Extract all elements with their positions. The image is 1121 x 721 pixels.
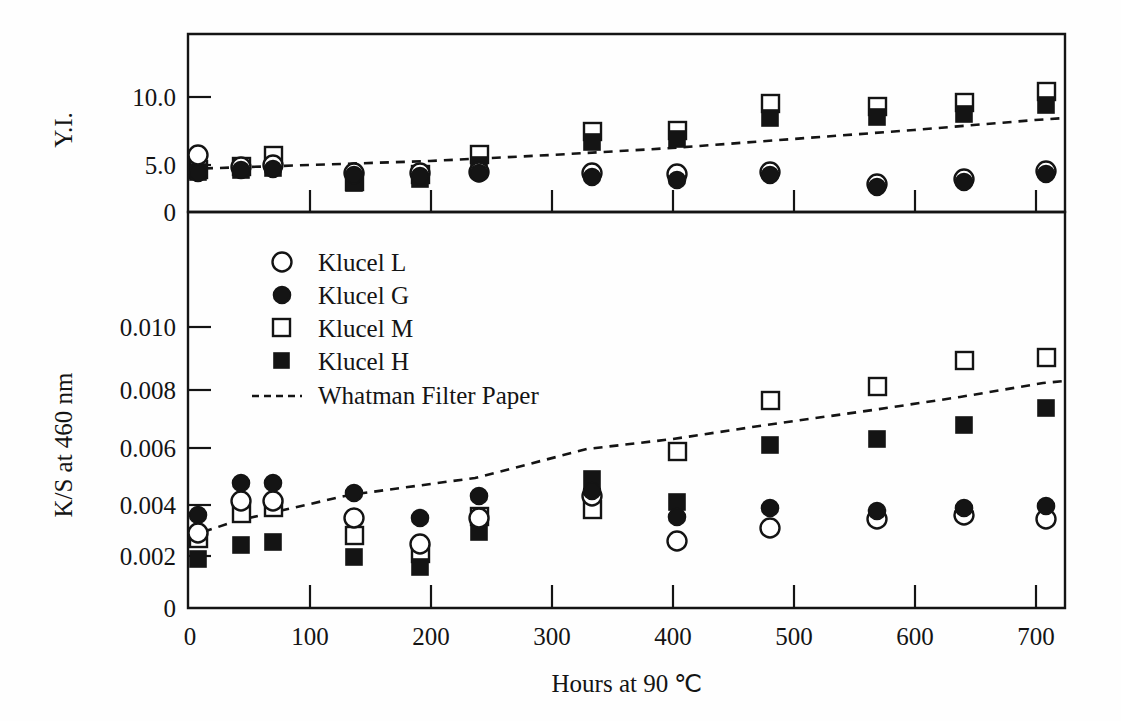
marker-filled-circle	[869, 179, 886, 196]
lower-ytick-label-0010: 0.010	[120, 314, 176, 341]
marker-filled-circle	[190, 507, 207, 524]
marker-filled-square	[1038, 400, 1054, 416]
legend-marker-filled-circle	[274, 287, 291, 304]
lower-x-ticks	[310, 585, 1036, 608]
marker-filled-circle	[669, 172, 686, 189]
marker-filled-square	[233, 537, 249, 553]
x-axis-title: Hours at 90 ℃	[552, 670, 703, 697]
marker-open-square	[869, 378, 886, 395]
legend-label-klucel-h: Klucel H	[318, 348, 409, 375]
upper-series-klucel-m	[190, 83, 1055, 190]
marker-open-circle	[189, 146, 208, 165]
marker-filled-square	[762, 110, 778, 126]
lower-series-klucel-m	[190, 349, 1055, 562]
marker-open-circle	[761, 519, 780, 538]
marker-filled-circle	[471, 488, 488, 505]
legend-marker-open-square	[273, 319, 290, 336]
marker-filled-circle	[233, 475, 250, 492]
marker-filled-circle	[233, 162, 250, 179]
marker-open-square	[669, 443, 686, 460]
marker-filled-circle	[869, 503, 886, 520]
legend-label-whatman-filter-paper: Whatman Filter Paper	[318, 382, 539, 409]
marker-filled-circle	[346, 485, 363, 502]
marker-filled-square	[412, 559, 428, 575]
marker-filled-circle	[669, 509, 686, 526]
marker-filled-square	[669, 494, 685, 510]
xtick-label-200: 200	[412, 623, 450, 650]
xtick-label-100: 100	[291, 623, 329, 650]
marker-open-square	[956, 352, 973, 369]
marker-open-circle	[668, 532, 687, 551]
marker-filled-square	[584, 134, 600, 150]
marker-filled-circle	[346, 167, 363, 184]
chart-legend: Klucel L Klucel G Klucel M Klucel H What…	[252, 249, 539, 409]
marker-filled-circle	[1038, 166, 1055, 183]
marker-filled-circle	[471, 165, 488, 182]
marker-filled-square	[265, 534, 281, 550]
marker-filled-square	[762, 437, 778, 453]
upper-panel-frame	[188, 34, 1065, 212]
xtick-label-0: 0	[184, 623, 197, 650]
lower-ytick-label-0006: 0.006	[120, 435, 176, 462]
marker-filled-circle	[762, 500, 779, 517]
lower-panel: 0.010 0.008 0.006 0.004 0.002 0 K/S at 4…	[50, 212, 1065, 622]
marker-filled-square	[956, 106, 972, 122]
marker-filled-circle	[584, 483, 601, 500]
marker-filled-square	[869, 109, 885, 125]
marker-open-circle	[232, 492, 251, 511]
x-axis: 0 100 200 300 400 500 600 700 Hours at 9…	[184, 623, 1055, 697]
upper-series-klucel-h	[190, 97, 1054, 191]
marker-open-square	[1038, 349, 1055, 366]
marker-open-square	[762, 392, 779, 409]
marker-filled-square	[669, 131, 685, 147]
marker-filled-square	[346, 549, 362, 565]
lower-ytick-label-0008: 0.008	[120, 377, 176, 404]
upper-series-klucel-l	[189, 146, 1056, 194]
legend-label-klucel-l: Klucel L	[318, 249, 406, 276]
marker-filled-circle	[412, 168, 429, 185]
marker-open-circle	[470, 509, 489, 528]
xtick-label-500: 500	[775, 623, 813, 650]
marker-filled-circle	[584, 169, 601, 186]
xtick-label-700: 700	[1017, 623, 1055, 650]
figure-root: 10.0 5.0 0 Y.I.	[0, 0, 1121, 721]
lower-y-axis-title: K/S at 460 nm	[50, 372, 77, 518]
upper-ytick-label-5: 5.0	[145, 152, 176, 179]
upper-whatman-trendline	[188, 118, 1065, 169]
chart-canvas: 10.0 5.0 0 Y.I.	[0, 0, 1121, 721]
marker-filled-square	[956, 417, 972, 433]
lower-ytick-label-0: 0	[164, 595, 177, 622]
lower-ytick-label-0004: 0.004	[120, 492, 177, 519]
lower-ytick-label-0002: 0.002	[120, 543, 176, 570]
marker-open-square	[346, 527, 363, 544]
marker-filled-circle	[956, 500, 973, 517]
upper-ytick-label-10: 10.0	[132, 84, 176, 111]
marker-filled-circle	[762, 167, 779, 184]
marker-open-circle	[264, 492, 283, 511]
lower-series-klucel-h	[190, 400, 1054, 575]
legend-marker-open-circle	[273, 253, 292, 272]
marker-filled-circle	[412, 510, 429, 527]
marker-open-circle	[189, 524, 208, 543]
lower-series-klucel-g	[190, 475, 1055, 527]
xtick-label-300: 300	[533, 623, 571, 650]
upper-x-ticks	[310, 190, 1036, 212]
xtick-label-400: 400	[654, 623, 692, 650]
marker-open-circle	[411, 535, 430, 554]
marker-filled-circle	[190, 165, 207, 182]
lower-series-klucel-l	[189, 487, 1056, 554]
marker-filled-circle	[956, 174, 973, 191]
legend-marker-filled-square	[274, 353, 289, 368]
marker-open-circle	[345, 509, 364, 528]
legend-label-klucel-m: Klucel M	[318, 315, 413, 342]
upper-y-axis-title: Y.I.	[50, 112, 77, 148]
marker-filled-circle	[1038, 498, 1055, 515]
upper-ytick-label-0: 0	[164, 199, 177, 226]
legend-label-klucel-g: Klucel G	[318, 282, 409, 309]
marker-filled-square	[1038, 97, 1054, 113]
xtick-label-600: 600	[896, 623, 934, 650]
upper-panel: 10.0 5.0 0 Y.I.	[50, 34, 1065, 226]
marker-filled-circle	[265, 475, 282, 492]
marker-filled-square	[869, 431, 885, 447]
marker-filled-circle	[265, 161, 282, 178]
